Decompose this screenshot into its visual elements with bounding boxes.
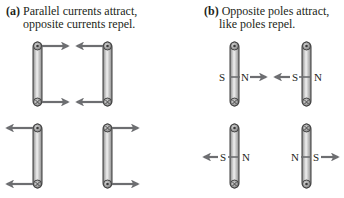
current-in-icon: [104, 98, 112, 106]
pole-label-s: S: [220, 151, 226, 163]
pole-label-n: N: [314, 71, 322, 83]
current-in-icon: [231, 180, 239, 188]
loop-a-bottom-right: [103, 124, 138, 188]
pole-label-n: N: [291, 151, 299, 163]
current-out-icon: [231, 124, 239, 132]
loop-b-top-left: S N: [219, 42, 266, 106]
pole-label-s: S: [292, 71, 298, 83]
current-in-icon: [34, 98, 42, 106]
pole-label-n: N: [242, 151, 250, 163]
current-out-icon: [303, 42, 311, 50]
pole-label-s: S: [313, 151, 319, 163]
loop-b-top-right: S N: [275, 42, 322, 106]
current-in-icon: [303, 124, 311, 132]
current-out-icon: [104, 42, 112, 50]
current-out-icon: [34, 42, 42, 50]
current-in-icon: [231, 98, 239, 106]
pole-label-s: S: [219, 71, 225, 83]
current-out-icon: [104, 180, 112, 188]
loop-a-top-right: [77, 42, 112, 106]
current-out-icon: [231, 42, 239, 50]
loop-b-bottom-left: S N: [204, 124, 250, 188]
loop-b-bottom-right: N S: [291, 124, 338, 188]
current-in-icon: [34, 180, 42, 188]
loop-a-top-left: [33, 42, 68, 106]
current-out-icon: [34, 124, 42, 132]
loop-a-bottom-left: [7, 124, 42, 188]
current-out-icon: [303, 180, 311, 188]
current-in-icon: [303, 98, 311, 106]
pole-label-n: N: [241, 71, 249, 83]
diagram-canvas: S N S N S N: [0, 0, 344, 198]
current-in-icon: [104, 124, 112, 132]
